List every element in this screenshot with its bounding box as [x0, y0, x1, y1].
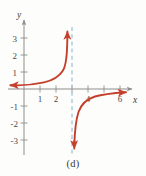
y-tick-label-neg1: -1 [11, 102, 19, 112]
figure-caption: (d) [0, 158, 146, 169]
y-axis: 3 2 1 -1 -2 -3 y [11, 10, 28, 155]
y-tick-label-3: 3 [13, 34, 18, 44]
function-graph: 1 2 4 6 x 3 2 1 -1 -2 -3 y [0, 0, 146, 176]
y-tick-label-1: 1 [13, 68, 18, 78]
y-axis-label: y [16, 10, 22, 20]
figure-container: 1 2 4 6 x 3 2 1 -1 -2 -3 y [0, 0, 146, 176]
x-axis-label: x [132, 95, 138, 105]
x-tick-label-2: 2 [54, 94, 59, 104]
y-tick-label-neg3: -3 [11, 136, 19, 146]
y-tick-label-neg2: -2 [11, 119, 19, 129]
x-axis: 1 2 4 6 x [8, 86, 138, 106]
y-tick-label-2: 2 [13, 51, 18, 61]
x-tick-label-6: 6 [118, 94, 123, 104]
x-tick-label-1: 1 [38, 94, 43, 104]
left-branch-curve [11, 32, 67, 86]
